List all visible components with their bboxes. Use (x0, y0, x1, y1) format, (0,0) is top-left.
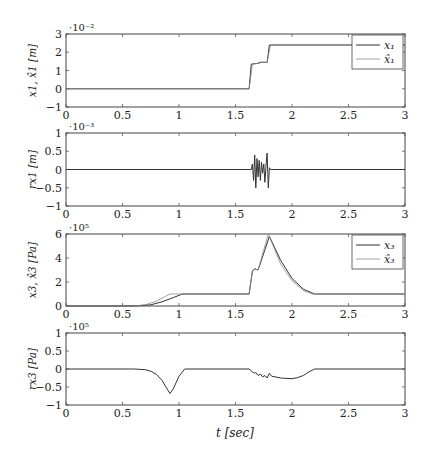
x-tick-label: 1.5 (227, 109, 245, 122)
axis-exponent: ·10⁻³ (69, 121, 94, 132)
y-tick-label: −1 (46, 399, 62, 412)
y-tick-label: 2 (55, 276, 62, 289)
subplot-1: 00.511.522.533210−1·10⁻²x1, x̂1 [m]x₁x̂₁ (26, 22, 409, 122)
x-axis-label: t [sec] (216, 426, 254, 440)
x-tick-label: 1 (176, 308, 183, 321)
y-tick-label: 0.5 (45, 345, 63, 358)
y-tick-label: −1 (46, 101, 62, 114)
x-tick-label: 1 (176, 208, 183, 221)
x-tick-label: 3 (402, 407, 409, 420)
y-tick-label: −0.5 (35, 182, 62, 195)
y-tick-label: 1 (55, 65, 62, 78)
y-tick-label: 0 (55, 164, 62, 177)
subplot-4: 00.511.522.5310.50−0.5−1·10⁵rx3 [Pa] (26, 321, 409, 420)
x-tick-label: 1 (176, 407, 183, 420)
x-tick-label: 1.5 (227, 407, 245, 420)
x-tick-label: 3 (402, 109, 409, 122)
x-tick-label: 2.5 (340, 109, 358, 122)
series-line (66, 369, 405, 394)
y-tick-label: 0.5 (45, 145, 63, 158)
series-line (66, 153, 405, 188)
y-tick-label: −1 (46, 200, 62, 213)
y-tick-label: −0.5 (35, 381, 62, 394)
legend-entry: x̂₃ (384, 253, 395, 266)
x-tick-label: 0.5 (114, 208, 132, 221)
x-tick-label: 0.5 (114, 308, 132, 321)
y-tick-label: 0 (55, 300, 62, 313)
x-tick-label: 3 (402, 308, 409, 321)
x-tick-label: 1.5 (227, 308, 245, 321)
y-tick-label: 1 (55, 127, 62, 140)
x-tick-label: 2 (289, 308, 296, 321)
y-tick-label: 0 (55, 363, 62, 376)
legend: x₁x̂₁ (352, 35, 403, 69)
x-tick-label: 2 (289, 208, 296, 221)
axis-exponent: ·10⁵ (69, 321, 89, 332)
x-tick-label: 2.5 (340, 208, 358, 221)
y-axis-label: rx1 [m] (26, 149, 38, 189)
y-tick-label: 0 (55, 83, 62, 96)
x-tick-label: 0 (63, 308, 70, 321)
subplot-2: 00.511.522.5310.50−0.5−1·10⁻³rx1 [m] (26, 121, 409, 221)
x-tick-label: 1 (176, 109, 183, 122)
y-tick-label: 1 (55, 327, 62, 340)
y-axis-label: rx3 [Pa] (26, 347, 38, 390)
legend-entry: x̂₁ (384, 53, 395, 66)
y-axis-label: x3, x̂3 [Pa] (26, 241, 38, 298)
x-tick-label: 1.5 (227, 208, 245, 221)
legend-entry: x₃ (384, 239, 395, 252)
y-axis-label: x1, x̂1 [m] (26, 43, 38, 97)
x-tick-label: 0 (63, 208, 70, 221)
x-tick-label: 2 (289, 109, 296, 122)
subplot-3: 00.511.522.536420·10⁵x3, x̂3 [Pa]x₃x̂₃ (26, 222, 409, 321)
x-tick-label: 2.5 (340, 308, 358, 321)
y-tick-label: 2 (55, 46, 62, 59)
axis-exponent: ·10⁵ (69, 222, 89, 233)
y-tick-label: 4 (55, 252, 62, 265)
x-tick-label: 0.5 (114, 109, 132, 122)
x-tick-label: 0 (63, 407, 70, 420)
x-tick-label: 2 (289, 407, 296, 420)
x-tick-label: 0.5 (114, 407, 132, 420)
axis-exponent: ·10⁻² (69, 22, 94, 33)
y-tick-label: 3 (55, 28, 62, 41)
legend: x₃x̂₃ (352, 235, 403, 269)
figure: 00.511.522.533210−1·10⁻²x1, x̂1 [m]x₁x̂₁… (0, 0, 429, 456)
x-tick-label: 3 (402, 208, 409, 221)
x-tick-label: 2.5 (340, 407, 358, 420)
legend-entry: x₁ (384, 39, 395, 52)
y-tick-label: 6 (55, 228, 62, 241)
